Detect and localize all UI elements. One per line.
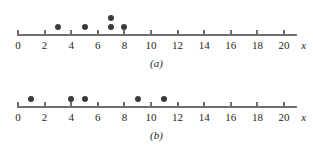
panel-label-b: (b) [0,130,313,141]
dot-plot-b: 02468101214161820 x (b) [0,72,313,144]
axis-tick-label-a-20: 20 [270,40,298,51]
axis-tick-b-4 [70,102,72,108]
axis-tick-label-a-8: 8 [110,40,138,51]
x-axis-label-a: x [301,40,306,51]
axis-tick-b-12 [177,102,179,108]
axis-tick-label-a-4: 4 [57,40,85,51]
axis-tick-b-18 [256,102,258,108]
axis-tick-a-6 [97,30,99,36]
axis-tick-a-12 [177,30,179,36]
dot-plot-figure: 02468101214161820 x (a) 0246810121416182… [0,0,313,145]
axis-tick-label-a-16: 16 [217,40,245,51]
axis-tick-a-2 [44,30,46,36]
axis-tick-label-b-6: 6 [84,112,112,123]
axis-tick-a-16 [230,30,232,36]
axis-tick-label-b-20: 20 [270,112,298,123]
axis-tick-a-20 [283,30,285,36]
panel-label-a: (a) [0,58,313,69]
data-point [108,15,114,21]
x-axis-label-b: x [301,112,306,123]
axis-tick-label-b-14: 14 [190,112,218,123]
data-point [28,96,34,102]
axis-tick-label-a-2: 2 [31,40,59,51]
axis-tick-b-14 [203,102,205,108]
axis-tick-label-a-14: 14 [190,40,218,51]
axis-tick-a-14 [203,30,205,36]
axis-tick-a-10 [150,30,152,36]
axis-tick-label-a-12: 12 [164,40,192,51]
axis-tick-label-a-18: 18 [243,40,271,51]
axis-tick-label-b-10: 10 [137,112,165,123]
axis-tick-b-16 [230,102,232,108]
axis-line-a [18,34,297,36]
axis-tick-a-18 [256,30,258,36]
axis-tick-label-a-6: 6 [84,40,112,51]
axis-tick-label-b-16: 16 [217,112,245,123]
data-point [121,24,127,30]
data-point [82,24,88,30]
axis-tick-b-8 [123,102,125,108]
axis-tick-a-4 [70,30,72,36]
axis-tick-b-10 [150,102,152,108]
data-point [55,24,61,30]
data-point [135,96,141,102]
data-point [82,96,88,102]
axis-tick-a-8 [123,30,125,36]
axis-tick-label-b-2: 2 [31,112,59,123]
axis-tick-label-b-4: 4 [57,112,85,123]
axis-tick-label-a-10: 10 [137,40,165,51]
axis-tick-label-b-8: 8 [110,112,138,123]
axis-tick-label-b-12: 12 [164,112,192,123]
axis-tick-label-b-18: 18 [243,112,271,123]
axis-tick-label-b-0: 0 [4,112,32,123]
data-point [68,96,74,102]
axis-tick-b-20 [283,102,285,108]
axis-tick-b-2 [44,102,46,108]
data-point [161,96,167,102]
axis-tick-b-0 [17,102,19,108]
axis-line-b [18,106,297,108]
axis-tick-a-0 [17,30,19,36]
data-point [108,24,114,30]
dot-plot-a: 02468101214161820 x (a) [0,0,313,72]
axis-tick-b-6 [97,102,99,108]
axis-tick-label-a-0: 0 [4,40,32,51]
